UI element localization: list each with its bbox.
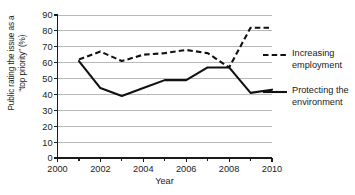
svg-text:2000: 2000 (47, 164, 67, 174)
legend-label-line-1: Increasing (292, 48, 334, 58)
svg-text:2006: 2006 (176, 164, 196, 174)
svg-text:70: 70 (42, 42, 52, 52)
legend-item-increasing-employment: Increasingemployment (262, 48, 355, 71)
legend-label-line-2: environment (292, 97, 343, 107)
x-tick-labels: 200020022004200620082010 (47, 164, 282, 174)
svg-text:80: 80 (42, 26, 52, 36)
chart-legend: Increasingemployment Protecting theenvir… (262, 48, 355, 122)
legend-item-protecting-the-environment: Protecting theenvironment (262, 85, 355, 108)
legend-swatch-solid-icon (262, 85, 288, 98)
svg-text:30: 30 (42, 106, 52, 116)
svg-text:50: 50 (42, 74, 52, 84)
legend-label-line-2: employment (292, 60, 342, 70)
legend-swatch-dashed-icon (262, 48, 288, 61)
svg-text:2002: 2002 (90, 164, 110, 174)
svg-text:2008: 2008 (219, 164, 239, 174)
svg-text:40: 40 (42, 90, 52, 100)
svg-text:60: 60 (42, 58, 52, 68)
svg-text:10: 10 (42, 138, 52, 148)
svg-text:2004: 2004 (133, 164, 153, 174)
svg-text:20: 20 (42, 122, 52, 132)
legend-label-protecting-the-environment: Protecting theenvironment (292, 85, 349, 108)
series-line-increasing-employment (79, 28, 272, 68)
y-tick-labels: 0102030405060708090 (42, 10, 52, 163)
x-axis-title: Year (57, 176, 272, 186)
legend-label-increasing-employment: Increasingemployment (292, 48, 342, 71)
svg-text:90: 90 (42, 10, 52, 20)
svg-text:0: 0 (47, 153, 52, 163)
tick-marks (54, 15, 272, 162)
chart-container: Public rating the issue as a “top priori… (0, 0, 355, 195)
legend-label-line-1: Protecting the (292, 85, 349, 95)
svg-text:2010: 2010 (262, 164, 282, 174)
